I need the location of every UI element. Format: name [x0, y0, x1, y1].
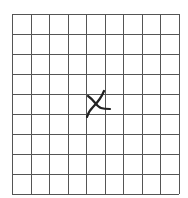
grid[interactable] — [0, 0, 188, 198]
